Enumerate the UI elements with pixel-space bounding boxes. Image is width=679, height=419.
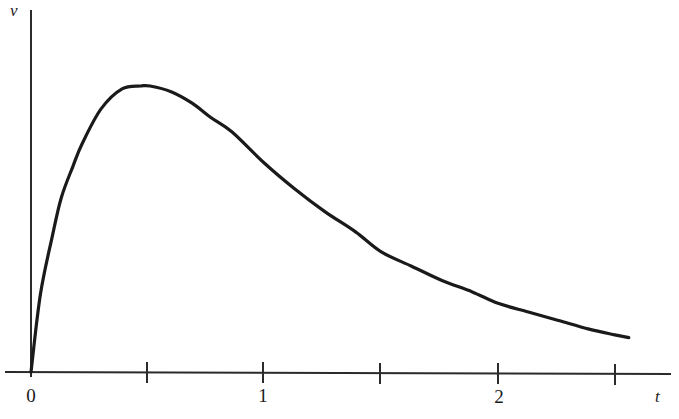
x-tick-label-0: 0: [18, 386, 44, 405]
velocity-curve: [31, 85, 629, 372]
chart-figure: v t 0 1 2: [0, 0, 679, 419]
plot-area: [0, 0, 679, 419]
x-tick-label-1: 1: [250, 386, 276, 405]
x-tick-label-2: 2: [486, 387, 512, 406]
x-axis-label: t: [655, 388, 660, 405]
y-axis-label: v: [10, 2, 18, 19]
x-axis: [5, 372, 671, 374]
